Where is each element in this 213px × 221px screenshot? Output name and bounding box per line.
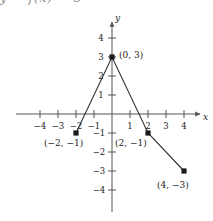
point-label-4-neg3: (4, −3) xyxy=(157,180,189,190)
y-tick-label: −1 xyxy=(93,128,106,138)
y-tick-label: 1 xyxy=(98,90,103,100)
x-tick-label: −2 xyxy=(70,121,83,131)
y-tick-label: 3 xyxy=(98,52,103,62)
point-label-neg2-neg1: (−2, −1) xyxy=(44,138,83,148)
y-axis-label: y xyxy=(115,13,120,23)
x-tick-label: 4 xyxy=(181,121,186,131)
y-tick-label: −3 xyxy=(93,166,106,176)
point-label-2-neg1: (2, −1) xyxy=(115,138,147,148)
y-tick-label: 4 xyxy=(98,33,103,43)
y-tick-label: 2 xyxy=(98,71,103,81)
y-tick-label: −4 xyxy=(93,185,106,195)
data-point-marker xyxy=(73,130,78,135)
x-tick-label: −4 xyxy=(34,121,47,131)
x-axis-label: x xyxy=(203,112,208,122)
data-point-marker xyxy=(181,168,186,173)
x-tick-label: 2 xyxy=(145,121,150,131)
x-tick-label: −3 xyxy=(52,121,65,131)
x-tick-label: 1 xyxy=(127,121,132,131)
data-point-marker xyxy=(109,54,114,59)
y-tick-label: −2 xyxy=(93,147,106,157)
point-label-0-3: (0, 3) xyxy=(119,50,143,60)
x-tick-label: 3 xyxy=(163,121,168,131)
data-point-marker xyxy=(145,130,150,135)
figure-canvas: y = f(x) = 3 xyxy=(0,0,213,221)
